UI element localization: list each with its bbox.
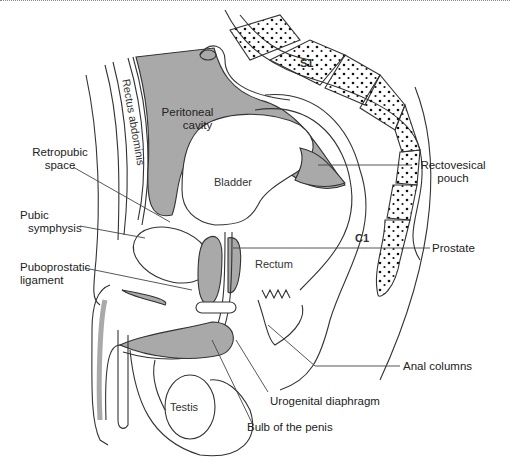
callout-puboprostatic-ligament-line1: Puboprostatic: [20, 261, 90, 274]
callout-anal-columns: Anal columns: [403, 360, 472, 373]
callout-retropubic-space-line2: space: [30, 159, 90, 172]
callout-puboprostatic-ligament-line2: ligament: [20, 274, 90, 287]
callout-urogenital-diaphragm: Urogenital diaphragm: [270, 395, 380, 408]
label-s1: S1: [300, 57, 313, 69]
callout-pubic-symphysis-line2: symphysis: [20, 222, 82, 235]
label-c1: C1: [355, 232, 369, 244]
label-bladder: Bladder: [214, 176, 252, 188]
label-peritoneal-cavity-line1: Peritoneal: [150, 106, 225, 119]
leader-urogenital-diaphragm: [236, 340, 268, 392]
callout-prostate: Prostate: [432, 242, 475, 255]
label-testis: Testis: [170, 401, 198, 413]
callout-rectovesical-pouch-line2: pouch: [413, 172, 493, 185]
label-peritoneal-cavity-line2: cavity: [150, 119, 225, 132]
anatomy-figure: Rectus abdominis Peritoneal cavity Bladd…: [0, 0, 510, 471]
prostate-region: [198, 236, 222, 305]
callout-pubic-symphysis: Pubic symphysis: [20, 209, 82, 235]
callout-puboprostatic-ligament: Puboprostatic ligament: [20, 261, 90, 287]
callout-rectovesical-pouch-line1: Rectovesical: [413, 159, 493, 172]
leader-anal-columns: [268, 325, 400, 366]
bulb-of-penis-region: [120, 322, 233, 358]
callout-retropubic-space-line1: Retropubic: [30, 146, 90, 159]
leader-pubic-symphysis: [80, 226, 145, 238]
label-peritoneal-cavity: Peritoneal cavity: [150, 106, 225, 132]
label-rectum: Rectum: [255, 258, 293, 270]
callout-rectovesical-pouch: Rectovesical pouch: [413, 159, 493, 185]
callout-pubic-symphysis-line1: Pubic: [20, 209, 82, 222]
callout-bulb-of-penis: Bulb of the penis: [247, 421, 333, 434]
coccyx: [376, 220, 410, 296]
pelvis-illustration: [0, 0, 510, 471]
leader-bulb-of-penis: [212, 340, 252, 423]
callout-retropubic-space: Retropubic space: [30, 146, 90, 172]
